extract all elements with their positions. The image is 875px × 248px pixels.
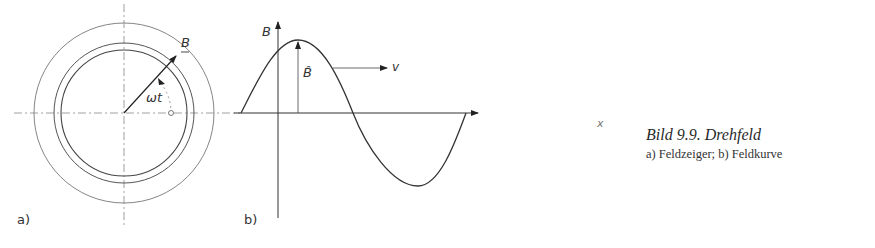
caption-title: Bild 9.9. Drehfeld	[646, 126, 782, 144]
figure-caption: Bild 9.9. Drehfeld a) Feldzeiger; b) Fel…	[646, 126, 782, 162]
panel-b-label: b)	[244, 212, 257, 227]
vector-label-b: B	[181, 35, 190, 50]
velocity-label-v: v	[392, 60, 399, 74]
panel-b-field-curve	[234, 22, 478, 218]
x-axis-label-x: x	[597, 117, 604, 130]
panel-a-phasor-diagram	[14, 4, 240, 228]
reference-point-marker	[169, 111, 174, 116]
panel-a-label: a)	[17, 212, 30, 227]
amplitude-label-b-hat: B̂	[303, 65, 312, 80]
y-axis-label-b: B	[262, 24, 271, 39]
caption-subtitle: a) Feldzeiger; b) Feldkurve	[646, 147, 782, 162]
angle-label-omega-t: ωt	[146, 90, 162, 105]
angle-arrowhead-icon	[158, 78, 165, 85]
figure-canvas	[0, 0, 875, 248]
